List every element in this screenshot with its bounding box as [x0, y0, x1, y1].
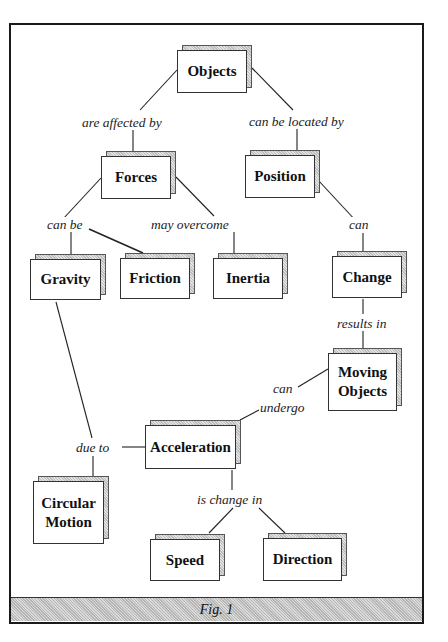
node-label: Moving Objects	[328, 353, 397, 411]
node-gravity: Gravity	[30, 259, 101, 300]
node-label: Acceleration	[145, 425, 236, 469]
link-label-results-in: results in	[336, 316, 387, 331]
node-label: Position	[245, 155, 315, 198]
link-label-can-be-located-by: can be located by	[248, 114, 345, 129]
link-label-due-to: due to	[75, 440, 110, 455]
node-friction: Friction	[120, 258, 190, 299]
node-position: Position	[245, 155, 315, 198]
node-acceleration: Acceleration	[145, 425, 236, 469]
node-moving-objects: Moving Objects	[328, 353, 397, 411]
node-label: Direction	[263, 538, 342, 581]
figure-caption-text: Fig. 1	[200, 602, 233, 618]
link-label-may-overcome: may overcome	[150, 217, 230, 232]
node-circular-motion: Circular Motion	[33, 481, 104, 544]
node-label: Gravity	[30, 259, 101, 300]
node-label: Circular Motion	[33, 481, 104, 544]
link-label-can-undergo-line1: can	[272, 381, 294, 396]
link-label-is-change-in: is change in	[196, 492, 263, 507]
node-label: Objects	[177, 50, 247, 93]
node-speed: Speed	[150, 539, 220, 581]
link-label-are-affected-by: are affected by	[81, 115, 163, 130]
node-label: Friction	[120, 258, 190, 299]
link-label-can-be: can be	[46, 217, 84, 232]
node-label: Speed	[150, 539, 220, 581]
node-direction: Direction	[263, 538, 342, 581]
node-objects: Objects	[177, 50, 247, 93]
node-forces: Forces	[101, 156, 171, 199]
link-label-can-undergo-line2: undergo	[259, 400, 306, 415]
node-label: Forces	[101, 156, 171, 199]
figure-caption: Fig. 1	[11, 597, 422, 621]
node-label: Change	[332, 256, 402, 298]
node-inertia: Inertia	[213, 258, 283, 299]
node-label: Inertia	[213, 258, 283, 299]
link-label-can: can	[348, 217, 370, 232]
node-change: Change	[332, 256, 402, 298]
